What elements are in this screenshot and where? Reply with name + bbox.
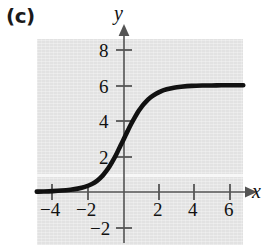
y-tick-label-2: 2: [99, 147, 109, 169]
x-axis-label: x: [252, 180, 261, 203]
figure-chart-c: (c) 8: [0, 0, 267, 249]
x-tick-label-6: 6: [224, 199, 234, 221]
y-axis-label: y: [114, 2, 123, 25]
logistic-curve: [37, 85, 243, 191]
x-tick-label-4: 4: [188, 199, 198, 221]
y-tick-label-8: 8: [99, 40, 109, 62]
x-tick-label-minus-4: −4: [40, 199, 60, 221]
y-tick-label-6: 6: [99, 76, 109, 98]
x-tick-label-2: 2: [153, 199, 163, 221]
x-tick-label-minus-2: −2: [76, 199, 96, 221]
y-tick-label-4: 4: [99, 111, 109, 133]
y-tick-label-minus-2: −2: [90, 218, 110, 240]
